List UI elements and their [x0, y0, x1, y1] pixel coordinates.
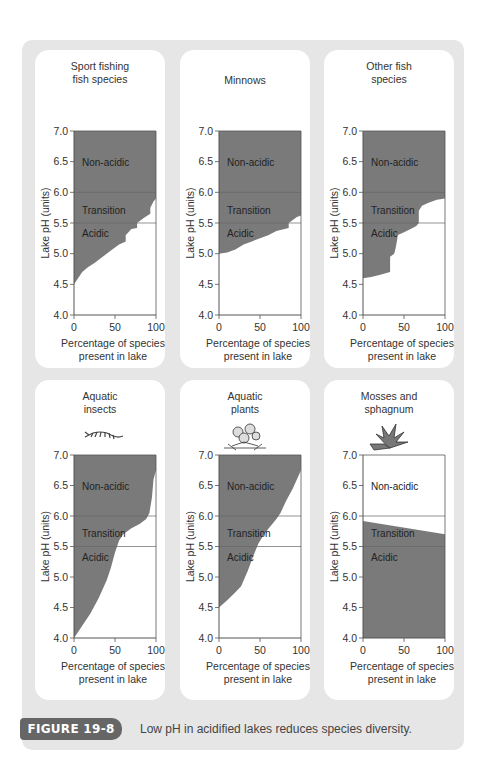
panel-other-fish: Other fish species 4.04.55.05.56.06.57.0…	[324, 50, 454, 368]
x-axis-label: present in lake	[79, 673, 147, 685]
y-tick-label: 5.5	[342, 540, 357, 552]
y-tick-label: 4.5	[342, 278, 357, 290]
band-label: Transition	[82, 205, 126, 216]
y-tick-label: 5.0	[198, 247, 213, 259]
y-tick-label: 5.5	[198, 540, 213, 552]
band-label: Acidic	[371, 552, 398, 563]
chart-minnows: 4.04.55.05.56.06.57.0050100Lake pH (unit…	[180, 50, 310, 368]
y-tick-label: 4.5	[53, 601, 68, 613]
y-tick-label: 6.0	[342, 510, 357, 522]
band-label: Non-acidic	[82, 481, 129, 492]
chart-aquatic-insects: 4.04.55.05.56.06.57.0050100Lake pH (unit…	[35, 380, 165, 700]
y-tick-label: 4.0	[342, 309, 357, 321]
y-axis-label: Lake pH (units)	[39, 187, 51, 258]
y-tick-label: 5.0	[342, 247, 357, 259]
y-tick-label: 5.5	[198, 217, 213, 229]
y-tick-label: 7.0	[53, 125, 68, 137]
y-axis-label: Lake pH (units)	[328, 511, 340, 582]
band-label: Non-acidic	[371, 481, 418, 492]
y-tick-label: 5.0	[53, 247, 68, 259]
x-tick-label: 100	[292, 644, 310, 656]
y-tick-label: 4.0	[53, 309, 68, 321]
y-tick-label: 6.5	[342, 155, 357, 167]
x-tick-label: 50	[254, 321, 266, 333]
x-axis-label: present in lake	[368, 673, 436, 685]
x-axis-label: Percentage of species	[61, 337, 165, 349]
x-tick-label: 0	[216, 644, 222, 656]
x-tick-label: 100	[436, 644, 454, 656]
panel-mosses: Mosses and sphagnum 4.04.55.05.56.06.57.…	[324, 380, 454, 700]
x-tick-label: 50	[398, 321, 410, 333]
y-tick-label: 6.0	[53, 510, 68, 522]
x-axis-label: Percentage of species	[350, 660, 454, 672]
band-label: Transition	[371, 205, 415, 216]
y-tick-label: 6.0	[342, 186, 357, 198]
y-tick-label: 5.5	[53, 217, 68, 229]
y-axis-label: Lake pH (units)	[328, 187, 340, 258]
y-tick-label: 7.0	[53, 449, 68, 461]
x-tick-label: 0	[360, 644, 366, 656]
band-label: Transition	[371, 528, 415, 539]
band-label: Non-acidic	[227, 157, 274, 168]
y-tick-label: 7.0	[198, 125, 213, 137]
y-tick-label: 5.0	[342, 571, 357, 583]
y-tick-label: 6.5	[198, 479, 213, 491]
chart-mosses: 4.04.55.05.56.06.57.0050100Lake pH (unit…	[324, 380, 454, 700]
panel-aquatic-plants: Aquatic plants 4.04.55.05.56.06.57.00501…	[180, 380, 310, 700]
x-tick-label: 100	[436, 321, 454, 333]
panel-minnows: Minnows 4.04.55.05.56.06.57.0050100Lake …	[180, 50, 310, 368]
y-tick-label: 4.0	[198, 632, 213, 644]
x-tick-label: 100	[147, 321, 165, 333]
x-tick-label: 0	[216, 321, 222, 333]
figure-caption: Low pH in acidified lakes reduces specie…	[140, 722, 412, 736]
x-axis-label: Percentage of species	[206, 337, 310, 349]
x-axis-label: Percentage of species	[350, 337, 454, 349]
y-axis-label: Lake pH (units)	[184, 187, 196, 258]
x-axis-label: present in lake	[79, 350, 147, 362]
x-tick-label: 50	[398, 644, 410, 656]
x-tick-label: 50	[109, 644, 121, 656]
y-tick-label: 7.0	[342, 125, 357, 137]
y-tick-label: 7.0	[198, 449, 213, 461]
y-tick-label: 5.5	[342, 217, 357, 229]
x-axis-label: Percentage of species	[206, 660, 310, 672]
figure-label-badge: FIGURE 19-8	[20, 718, 122, 740]
band-label: Non-acidic	[82, 157, 129, 168]
y-tick-label: 6.5	[53, 479, 68, 491]
y-tick-label: 4.5	[342, 601, 357, 613]
y-tick-label: 4.5	[198, 601, 213, 613]
x-axis-label: present in lake	[224, 350, 292, 362]
band-label: Acidic	[82, 228, 109, 239]
x-tick-label: 0	[71, 321, 77, 333]
y-axis-label: Lake pH (units)	[39, 511, 51, 582]
y-tick-label: 6.5	[198, 155, 213, 167]
x-tick-label: 50	[254, 644, 266, 656]
band-label: Acidic	[371, 228, 398, 239]
y-tick-label: 4.0	[342, 632, 357, 644]
band-label: Acidic	[227, 552, 254, 563]
y-tick-label: 7.0	[342, 449, 357, 461]
x-tick-label: 50	[109, 321, 121, 333]
y-tick-label: 4.5	[53, 278, 68, 290]
chart-other-fish: 4.04.55.05.56.06.57.0050100Lake pH (unit…	[324, 50, 454, 368]
y-tick-label: 6.5	[342, 479, 357, 491]
y-tick-label: 5.0	[53, 571, 68, 583]
band-label: Non-acidic	[371, 157, 418, 168]
panel-aquatic-insects: Aquatic insects 4.04.55.05.56.06.57.0050…	[35, 380, 165, 700]
x-axis-label: present in lake	[224, 673, 292, 685]
x-tick-label: 0	[360, 321, 366, 333]
band-label: Acidic	[227, 228, 254, 239]
y-tick-label: 4.0	[53, 632, 68, 644]
x-axis-label: Percentage of species	[61, 660, 165, 672]
y-tick-label: 6.0	[53, 186, 68, 198]
y-tick-label: 4.5	[198, 278, 213, 290]
band-label: Transition	[82, 528, 126, 539]
y-tick-label: 5.0	[198, 571, 213, 583]
y-tick-label: 6.5	[53, 155, 68, 167]
chart-aquatic-plants: 4.04.55.05.56.06.57.0050100Lake pH (unit…	[180, 380, 310, 700]
chart-sport-fish: 4.04.55.05.56.06.57.0050100Lake pH (unit…	[35, 50, 165, 368]
panel-sport-fish: Sport fishing fish species 4.04.55.05.56…	[35, 50, 165, 368]
y-tick-label: 6.0	[198, 186, 213, 198]
x-axis-label: present in lake	[368, 350, 436, 362]
y-axis-label: Lake pH (units)	[184, 511, 196, 582]
